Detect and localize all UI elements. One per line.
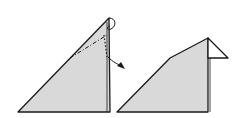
step-1-figure <box>18 18 125 112</box>
folded-paper <box>117 38 208 112</box>
beak-flap <box>208 38 228 58</box>
triangle-paper <box>18 18 110 112</box>
arrow-head-icon <box>117 62 125 69</box>
step-2-figure <box>117 38 228 112</box>
origami-diagram <box>0 0 242 118</box>
